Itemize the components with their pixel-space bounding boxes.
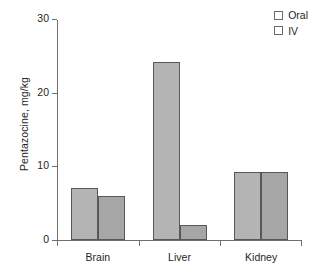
y-axis-title: Pentazocine, mg/kg — [18, 44, 30, 204]
x-category-label-kidney: Kidney — [245, 251, 277, 263]
y-tick-20: 20 — [52, 93, 57, 94]
y-tick-label-10: 10 — [37, 159, 49, 171]
y-tick-label-0: 0 — [43, 233, 49, 245]
y-tick-30: 30 — [52, 19, 57, 20]
legend-label-oral: Oral — [288, 10, 308, 21]
bar-kidney-iv — [261, 172, 288, 241]
x-tick-1 — [139, 241, 140, 246]
y-tick-label-30: 30 — [37, 12, 49, 24]
plot-area: 0102030 BrainLiverKidney — [57, 20, 302, 241]
x-tick-0 — [57, 241, 58, 246]
bar-chart: Oral IV Pentazocine, mg/kg 0102030 Brain… — [0, 0, 316, 272]
legend-item-oral: Oral — [274, 10, 308, 21]
y-tick-10: 10 — [52, 166, 57, 167]
y-tick-label-20: 20 — [37, 86, 49, 98]
bar-brain-iv — [98, 196, 125, 240]
x-tick-2 — [220, 241, 221, 246]
y-axis-line — [57, 20, 58, 241]
bar-liver-oral — [153, 62, 180, 240]
x-tick-3 — [301, 241, 302, 246]
x-category-label-liver: Liver — [168, 251, 191, 263]
bar-liver-iv — [180, 225, 207, 240]
legend-swatch-oral — [274, 11, 283, 20]
bar-kidney-oral — [234, 172, 261, 241]
bar-brain-oral — [71, 188, 98, 240]
x-axis-line — [57, 240, 302, 241]
x-category-label-brain: Brain — [86, 251, 111, 263]
